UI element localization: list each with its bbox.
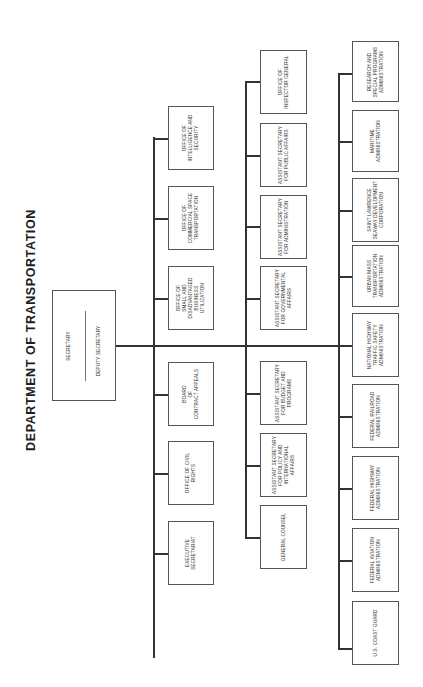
box-urban-mass-transportation: URBAN MASS TRANSPORTATION ADMINISTRATION (352, 245, 399, 307)
connector (338, 560, 352, 562)
box-office-commercial-space: OFFICE OF COMMERCIAL SPACE TRANSPORTATIO… (168, 186, 214, 250)
box-asst-sec-administration: ASSISTANT SECRETARY FOR ADMINISTRATION (260, 195, 307, 259)
main-trunk-line (116, 345, 338, 347)
connector (245, 81, 260, 83)
box-asst-sec-governmental-affairs: ASSISTANT SECRETARY FOR GOVERNMENTAL AFF… (260, 266, 307, 330)
connector (153, 298, 168, 300)
connector (338, 73, 352, 75)
box-maritime-administration: MARITIME ADMINISTRATION (352, 110, 399, 172)
connector (338, 416, 352, 418)
secretary-label: SECRETARY (66, 331, 72, 360)
box-saint-lawrence-seaway: SAINT LAWRENCE SEAWAY DEVELOPMENT CORPOR… (352, 178, 399, 242)
deputy-secretary-label: DEPUTY SECRETARY (96, 326, 102, 377)
box-asst-sec-public-affairs: ASSISTANT SECRETARY FOR PUBLIC AFFAIRS (260, 123, 307, 187)
box-executive-secretariat: EXECUTIVE SECRETARIAT (168, 521, 214, 585)
secretarial-officers-spine (245, 81, 247, 538)
connector (338, 345, 352, 347)
box-federal-highway: FEDERAL HIGHWAY ADMINISTRATION (352, 456, 399, 520)
box-us-coast-guard: U.S. COAST GUARD (352, 601, 399, 665)
box-federal-aviation: FEDERAL AVIATION ADMINISTRATION (352, 528, 399, 592)
connector (338, 141, 352, 143)
connector (153, 218, 168, 220)
connector (338, 210, 352, 212)
connector (245, 537, 260, 539)
box-inspector-general: OFFICE OF INSPECTOR GENERAL (260, 50, 307, 114)
connector (338, 276, 352, 278)
box-nhtsa: NATIONAL HIGHWAY TRAFFIC SAFETY ADMINIST… (352, 313, 399, 377)
connector (245, 465, 260, 467)
connector (153, 138, 168, 140)
connector (153, 394, 168, 396)
box-asst-sec-budget-programs: ASSISTANT SECRETARY FOR BUDGET AND PROGR… (260, 361, 307, 425)
connector (245, 226, 260, 228)
connector (153, 553, 168, 555)
chart-title-text: DEPARTMENT OF TRANSPORTATION (24, 209, 38, 451)
box-general-counsel: GENERAL COUNSEL (260, 505, 307, 569)
box-office-intelligence-security: OFFICE OF INTELLIGENCE AND SECURITY (168, 106, 214, 170)
staff-offices-spine (153, 137, 155, 658)
box-asst-sec-policy-international: ASSISTANT SECRETARY FOR POLICY AND INTER… (260, 433, 307, 497)
connector (338, 648, 352, 650)
secretary-box: SECRETARY DEPUTY SECRETARY (52, 290, 116, 401)
box-office-civil-rights: OFFICE OF CIVIL RIGHTS (168, 441, 214, 505)
operating-administrations-spine (338, 73, 340, 649)
connector (338, 488, 352, 490)
connector (245, 393, 260, 395)
box-board-contract-appeals: BOARD OF CONTRACT APPEALS (168, 362, 214, 426)
box-research-special-programs: RESEARCH AND SPECIAL PROGRAMS ADMINISTRA… (352, 41, 399, 102)
connector (153, 473, 168, 475)
box-federal-railroad: FEDERAL RAILROAD ADMINISTRATION (352, 384, 399, 448)
secretary-divider (85, 311, 86, 381)
connector (245, 298, 260, 300)
box-office-small-disadvantaged-business: OFFICE OF SMALL AND DISADVANTAGED BUSINE… (168, 266, 214, 330)
connector (245, 155, 260, 157)
